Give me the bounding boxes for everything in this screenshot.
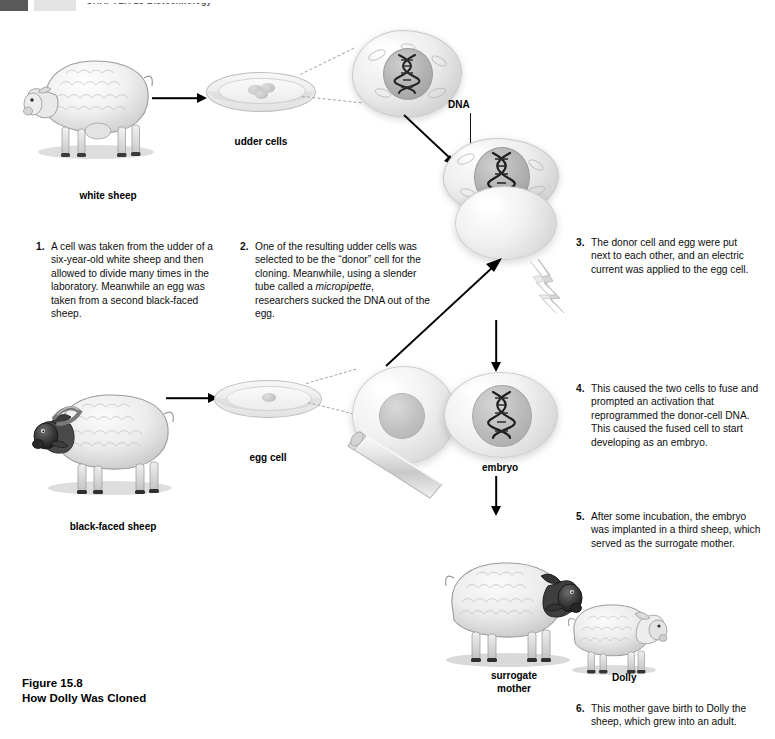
running-head: CHAPTER 15 Biotechnology — [0, 0, 775, 13]
dolly-lamb-illustration — [556, 578, 676, 678]
figure-caption: Figure 15.8 How Dolly Was Cloned — [22, 676, 146, 705]
arrow-pair-to-embryo — [489, 320, 503, 372]
step-6: 6. This mother gave birth to Dolly the s… — [576, 702, 768, 729]
dashed-leader-egg-upper — [306, 369, 356, 384]
arrow-sheep-to-dish — [152, 92, 207, 104]
step-5: 5. After some incubation, the embryo was… — [576, 510, 766, 550]
step-1: 1. A cell was taken from the udder of a … — [36, 240, 221, 320]
white-sheep-illustration — [18, 28, 168, 178]
figure-page: CHAPTER 15 Biotechnology — [0, 0, 775, 739]
running-head-text: CHAPTER 15 Biotechnology — [86, 0, 212, 6]
label-black-faced-sheep: black-faced sheep — [28, 521, 198, 533]
step-3-number: 3. — [576, 236, 585, 249]
arrow-blacksheep-to-dish — [166, 392, 218, 404]
step-1-text: A cell was taken from the udder of a six… — [51, 240, 221, 320]
figure-title: How Dolly Was Cloned — [22, 691, 146, 706]
step-2-number: 2. — [240, 240, 249, 253]
dashed-leader-upper — [300, 48, 354, 75]
step-4-number: 4. — [576, 382, 585, 395]
black-faced-sheep-illustration — [24, 352, 184, 512]
label-surrogate-mother-line1: surrogate — [491, 670, 537, 681]
enucleated-egg-cell — [455, 186, 557, 260]
label-dna: DNA — [448, 99, 518, 111]
step-3: 3. The donor cell and egg were put next … — [576, 236, 754, 276]
petri-dish-egg — [214, 380, 322, 416]
step-3-text: The donor cell and egg were put next to … — [591, 236, 754, 276]
arrow-embryo-to-surrogate — [489, 476, 503, 516]
donor-cell-top — [352, 30, 462, 118]
label-egg-cell: egg cell — [198, 452, 338, 464]
step-6-number: 6. — [576, 702, 585, 715]
label-udder-cells: udder cells — [196, 136, 326, 148]
label-surrogate-mother: surrogate mother — [456, 670, 572, 695]
label-dolly: Dolly — [612, 672, 692, 684]
label-embryo: embryo — [440, 462, 560, 474]
step-2-term-micropipette: micropipette — [316, 281, 372, 292]
step-5-text: After some incubation, the embryo was im… — [591, 510, 766, 550]
step-4: 4. This caused the two cells to fuse and… — [576, 382, 762, 449]
running-head-block — [0, 0, 28, 11]
figure-number: Figure 15.8 — [22, 676, 146, 691]
label-surrogate-mother-line2: mother — [497, 683, 531, 694]
step-4-text: This caused the two cells to fuse and pr… — [591, 382, 762, 449]
embryo-cell — [444, 372, 558, 458]
dna-helix-embryo — [484, 390, 518, 440]
petri-dish-udder — [206, 72, 316, 110]
step-6-text: This mother gave birth to Dolly the shee… — [591, 702, 768, 729]
step-1-number: 1. — [36, 240, 45, 253]
dna-helix-top — [391, 53, 423, 95]
running-head-block-light — [34, 0, 76, 11]
label-white-sheep: white sheep — [48, 190, 168, 202]
micropipette — [330, 418, 450, 500]
